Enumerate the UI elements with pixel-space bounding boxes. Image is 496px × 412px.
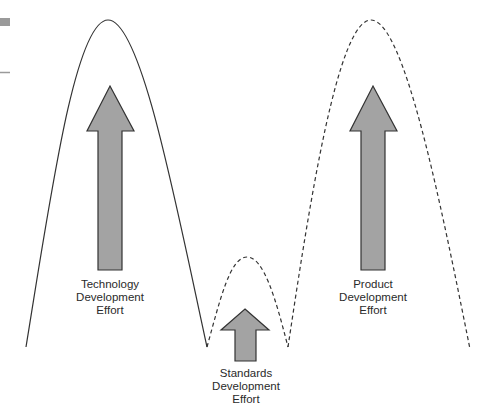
label-line: Technology [76, 278, 144, 291]
standards-effort-label: Standards Development Effort [212, 367, 280, 406]
label-line: Effort [339, 304, 407, 317]
label-line: Development [212, 380, 280, 393]
label-line: Effort [76, 304, 144, 317]
label-line: Development [339, 291, 407, 304]
technology-effort-label: Technology Development Effort [76, 278, 144, 317]
standards-up-arrow-icon [221, 309, 269, 361]
label-line: Product [339, 278, 407, 291]
label-line: Development [76, 291, 144, 304]
technology-up-arrow-icon [87, 86, 134, 270]
label-line: Effort [212, 393, 280, 406]
margin-bar-mark [0, 18, 10, 26]
effort-diagram [0, 0, 496, 412]
product-effort-label: Product Development Effort [339, 278, 407, 317]
label-line: Standards [212, 367, 280, 380]
product-up-arrow-icon [350, 86, 397, 270]
